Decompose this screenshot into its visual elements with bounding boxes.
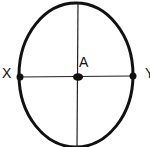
ellipse-diagram: X A Y bbox=[0, 0, 150, 147]
label-a: A bbox=[79, 54, 89, 70]
point-y-dot bbox=[130, 73, 137, 80]
point-a-dot bbox=[73, 73, 83, 81]
label-y: Y bbox=[145, 65, 150, 81]
point-x-dot bbox=[17, 74, 24, 81]
label-x: X bbox=[2, 65, 12, 81]
